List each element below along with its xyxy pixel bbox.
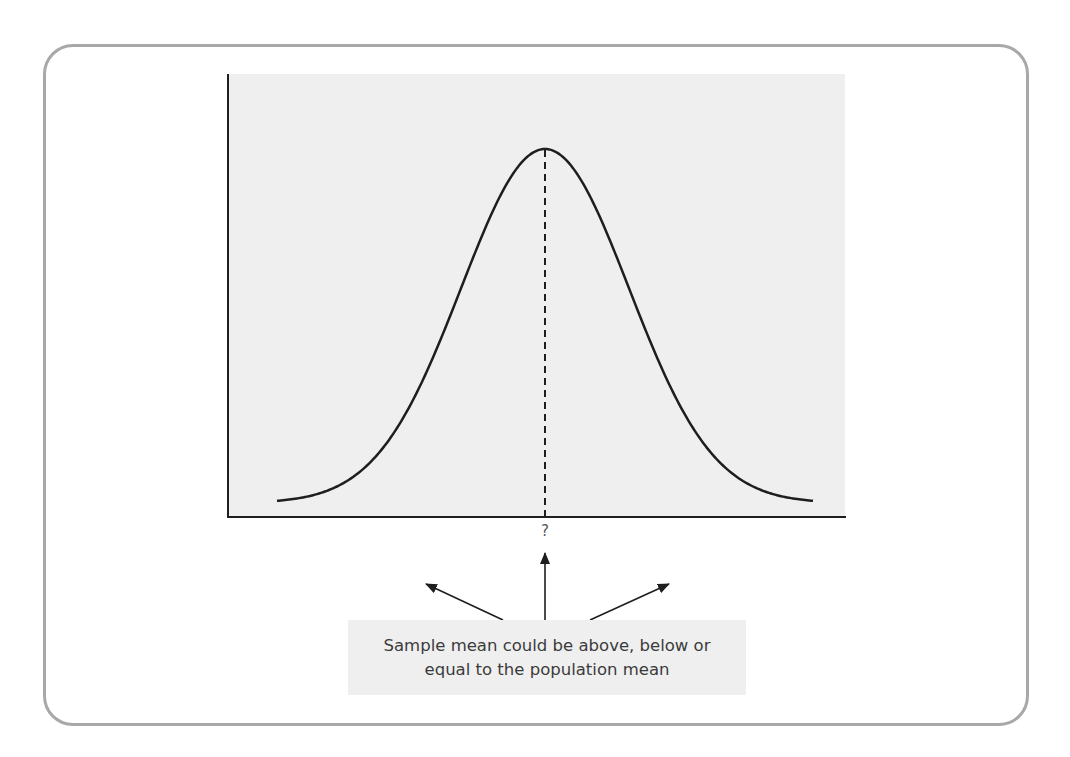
caption-box: Sample mean could be above, below or equ…	[348, 620, 746, 695]
plot-area	[228, 74, 845, 517]
caption-line-2: equal to the population mean	[348, 658, 746, 682]
arrow-right-icon	[590, 584, 669, 620]
mean-unknown-label: ?	[535, 522, 555, 540]
caption-line-1: Sample mean could be above, below or	[348, 634, 746, 658]
arrow-left-icon	[426, 584, 503, 620]
